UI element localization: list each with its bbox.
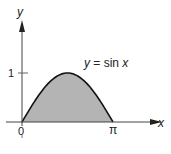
x-axis-label: x xyxy=(157,116,165,130)
y-tick-label-1: 1 xyxy=(8,67,14,79)
function-label-x: x xyxy=(121,56,129,70)
x-tick-label-pi: π xyxy=(109,123,117,137)
y-axis-arrow-icon xyxy=(19,20,25,32)
function-label: y = sin x xyxy=(83,56,129,70)
x-tick-label-0: 0 xyxy=(18,125,24,137)
y-axis-label: y xyxy=(16,5,24,19)
function-label-mid: = sin xyxy=(90,56,122,70)
sine-area-chart: y x 1 0 π y = sin x xyxy=(0,0,171,154)
shaded-area xyxy=(22,73,113,122)
